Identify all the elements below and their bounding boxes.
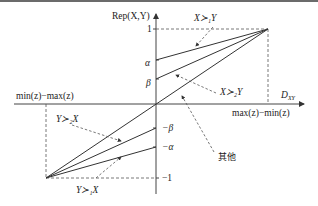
x-axis-label: DXY <box>280 90 296 101</box>
label-y-pref1-x: Y≻₁X <box>76 185 100 195</box>
y-axis-label: Rep(X,Y) <box>112 11 150 22</box>
label-x-pref1-y: X≻₁Y <box>193 13 218 23</box>
tick-label-neg-one: −1 <box>162 173 172 183</box>
line-y-pref2-x <box>46 128 156 178</box>
tick-label-one: 1 <box>147 24 152 34</box>
tick-label-neg-alpha: −α <box>162 142 174 152</box>
label-other: 其他 <box>218 151 236 162</box>
tick-label-neg-beta: −β <box>162 123 173 133</box>
label-y-pref2-x: Y≻₂X <box>56 114 80 124</box>
tick-label-alpha: α <box>145 58 151 68</box>
line-x-pref1-y <box>156 29 268 60</box>
tick-label-beta: β <box>145 78 151 88</box>
line-x-pref2-y <box>156 29 268 79</box>
representation-diagram: Rep(X,Y) 1 α β −β −α −1 min(z)−max(z) ma… <box>0 0 318 206</box>
x-neg-label: min(z)−max(z) <box>16 91 74 102</box>
arrow-x-pref1-y <box>196 27 213 46</box>
label-x-pref2-y: X≻₂Y <box>219 87 244 97</box>
x-pos-label: max(z)−min(z) <box>232 108 290 119</box>
